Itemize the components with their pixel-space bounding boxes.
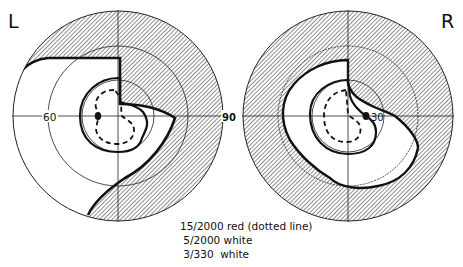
legend-item-red-15-2000: 15/2000 red (dotted line) xyxy=(180,219,312,233)
left-eye-label: L xyxy=(8,10,19,32)
right-blind-spot xyxy=(363,112,370,120)
legend-item-white-3-330: 3/330 white xyxy=(180,247,312,261)
left-eye-field xyxy=(0,10,224,230)
right-axis-label-30: 30 xyxy=(371,112,384,123)
right-eye-field xyxy=(242,10,454,222)
axis-label-90: 90 xyxy=(222,112,236,123)
left-axis-label-60: 60 xyxy=(43,111,56,123)
left-blind-spot xyxy=(95,112,101,120)
legend: 15/2000 red (dotted line) 5/2000 white 3… xyxy=(180,219,312,261)
right-eye-label: R xyxy=(441,10,454,32)
legend-item-white-5-2000: 5/2000 white xyxy=(180,233,312,247)
